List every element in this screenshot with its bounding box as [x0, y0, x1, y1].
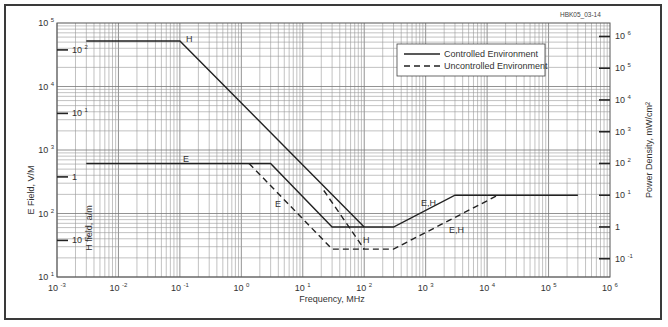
x-tick-label: 10 -1	[171, 282, 190, 293]
x-axis-label: Frequency, MHz	[299, 294, 365, 304]
y-axis-label-left: E Field, V/M	[26, 165, 36, 214]
x-tick-label: 10 1	[295, 282, 312, 293]
x-tick-label: 10 3	[418, 282, 435, 293]
power-density-tick-label: 1	[615, 222, 620, 232]
power-density-tick-label: 10 1	[615, 189, 632, 200]
chart-canvas: 10 -310 -210 -110 010 110 210 310 410 51…	[0, 0, 668, 327]
annotation-eh-controlled: E,H	[421, 198, 436, 208]
annotation-h-controlled: H	[186, 34, 193, 44]
power-density-tick-label: 10 6	[615, 30, 632, 41]
h-field-axis-label: H field, a/m	[84, 205, 94, 251]
annotation-e-uncontrolled: E	[275, 199, 281, 209]
power-density-tick-label: 10 2	[615, 157, 632, 168]
legend-label-uncontrolled: Uncontrolled Environment	[444, 61, 548, 71]
legend-label-controlled: Controlled Environment	[444, 49, 539, 59]
power-density-tick-label: 10 4	[615, 94, 632, 105]
power-density-tick-label: 10 5	[615, 62, 632, 73]
series-controlled-h	[86, 41, 364, 227]
legend: Controlled Environment Uncontrolled Envi…	[397, 44, 548, 76]
x-tick-label: 10 -3	[48, 282, 67, 293]
power-density-tick-label: 10 3	[615, 126, 632, 137]
figure-id: HBK05_03-14	[560, 11, 601, 19]
annotation-eh-uncontrolled: E,H	[449, 225, 464, 235]
annotation-h-uncontrolled: H	[363, 235, 370, 245]
x-tick-label: 10 2	[356, 282, 373, 293]
power-density-tick-label: 10 -1	[615, 253, 634, 264]
y-tick-label: 10 3	[38, 144, 55, 155]
x-tick-label: 10 6	[602, 282, 619, 293]
x-tick-label: 10 -2	[110, 282, 129, 293]
y-tick-label: 10 4	[38, 81, 55, 92]
annotation-e-controlled: E	[183, 154, 189, 164]
y-tick-label: 10 5	[38, 17, 55, 28]
x-tick-label: 10 4	[479, 282, 496, 293]
series-uncontrolled-e	[249, 164, 498, 250]
x-tick-label: 10 5	[541, 282, 558, 293]
y-tick-label: 10 2	[38, 208, 55, 219]
y-axis-label-right: Power Density, mW/cm²	[644, 102, 654, 198]
h-field-tick-label: 1	[72, 172, 77, 182]
y-tick-label: 10 1	[38, 271, 55, 282]
x-tick-label: 10 0	[233, 282, 250, 293]
